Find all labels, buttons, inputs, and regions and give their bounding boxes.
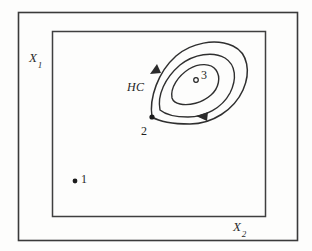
point-1-label: 1 <box>81 172 87 187</box>
point-2-label: 2 <box>141 124 147 139</box>
axis-x1-subscript: 1 <box>38 60 43 70</box>
hc-annotation-label: HC <box>127 80 144 95</box>
arrow-right <box>196 112 208 121</box>
point-3-marker <box>194 78 199 83</box>
point-2-marker <box>149 114 154 119</box>
point-1-marker <box>73 179 78 184</box>
axis-x2-subscript: 2 <box>242 229 247 239</box>
contour-middle <box>159 54 234 117</box>
point-3-label: 3 <box>201 68 207 83</box>
outer-frame <box>19 13 298 241</box>
inner-frame <box>53 32 266 217</box>
contour-inner <box>172 65 219 105</box>
axis-label-x1: X1 <box>29 50 42 68</box>
axis-x2-symbol: X <box>233 219 241 234</box>
axis-label-x2: X2 <box>233 219 246 237</box>
arrow-left <box>150 64 161 74</box>
axis-x1-symbol: X <box>29 50 37 65</box>
figure-container: X1 X2 HC 1 2 3 <box>0 0 312 251</box>
figure-canvas <box>0 0 312 251</box>
